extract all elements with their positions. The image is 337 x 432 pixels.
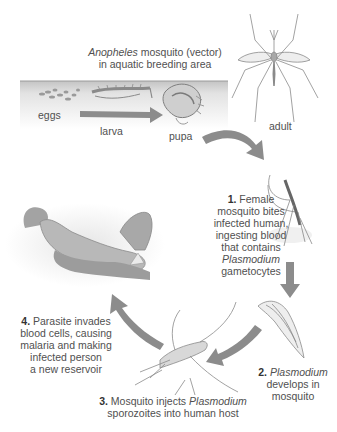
arrow-pupa-to-step1: [202, 130, 264, 160]
habitat-caption: Anopheles mosquito (vector) in aquatic b…: [72, 46, 238, 70]
caption-line2: in aquatic breeding area: [72, 58, 238, 70]
label-pupa: pupa: [169, 130, 192, 142]
plasmodium-term: Plasmodium: [270, 366, 328, 378]
plasmodium-term: Plasmodium: [206, 253, 296, 265]
label-larva: larva: [100, 125, 123, 137]
step-3-text: 3. Mosquito injects Plasmodium sporozoit…: [88, 395, 258, 419]
step-2-text: 2. Plasmodium develops in mosquito: [248, 366, 337, 402]
step-number: 4.: [21, 315, 30, 327]
label-eggs: eggs: [38, 109, 61, 121]
step-number: 1.: [228, 193, 237, 205]
plasmodium-in-mosquito-illustration: [258, 301, 304, 358]
adult-mosquito-illustration: [232, 14, 318, 122]
injecting-mosquito-illustration: [135, 302, 238, 395]
plasmodium-term: Plasmodium: [189, 395, 247, 407]
caption-line1: mosquito (vector): [138, 46, 222, 58]
step-4-text: 4. Parasite invades blood cells, causing…: [10, 315, 122, 375]
infected-human-illustration: [5, 203, 165, 287]
species-name: Anopheles: [88, 46, 138, 58]
arrow-step2-to-step3: [206, 325, 262, 366]
step-1-text: 1. Female mosquito bites infected human,…: [206, 193, 296, 277]
step-number: 2.: [258, 366, 267, 378]
step-number: 3.: [99, 395, 108, 407]
label-adult: adult: [269, 120, 292, 132]
